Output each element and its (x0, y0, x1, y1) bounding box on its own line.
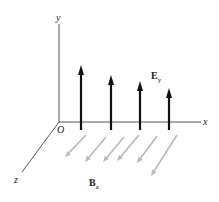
electric-field-arrowhead-icon (78, 65, 84, 75)
x-axis-label: x (202, 116, 208, 127)
electric-field-arrowhead-icon (108, 75, 114, 85)
magnetic-field-arrow-shaft (69, 135, 86, 153)
electric-field-arrowhead-icon (166, 88, 172, 98)
diagram-canvas: y x z O Ey Bz (0, 0, 219, 202)
magnetic-field-label: Bz (89, 177, 99, 191)
magnetic-field-arrow-shaft (154, 135, 177, 171)
magnetic-field-arrows (65, 135, 177, 176)
y-axis-label: y (55, 12, 61, 23)
magnetic-field-subscript: z (96, 183, 99, 191)
electric-field-arrows (78, 65, 172, 130)
electric-field-arrowhead-icon (137, 81, 143, 91)
magnetic-field-arrow-shaft (107, 137, 124, 157)
origin-label: O (57, 124, 64, 135)
electric-field-label: Ey (151, 70, 162, 84)
z-axis-line (22, 122, 59, 172)
magnetic-field-arrow-shaft (89, 137, 106, 157)
magnetic-field-arrow-shaft (141, 136, 157, 158)
electric-field-subscript: y (158, 76, 162, 84)
z-axis-label: z (13, 174, 18, 185)
